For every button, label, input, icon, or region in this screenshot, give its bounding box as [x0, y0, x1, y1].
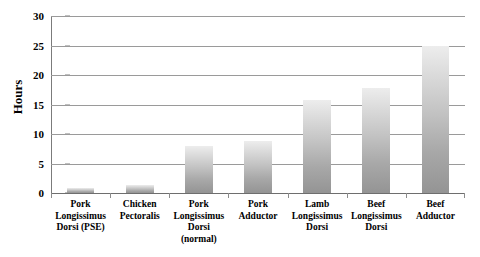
y-axis-tick-label: 20	[33, 70, 44, 81]
x-axis-tick-mark	[406, 193, 407, 198]
x-axis-tick-mark	[347, 193, 348, 198]
bars-layer	[51, 16, 465, 193]
x-axis-category-label: LambLongissimusDorsi	[288, 199, 347, 257]
x-axis-category-label-line: Dorsi	[289, 222, 346, 234]
bar-chart: Hours 051015202530 PorkLongissimusDorsi …	[0, 0, 480, 257]
x-axis-category-label-line: Pork	[170, 199, 227, 211]
x-axis-category-label-line: Longissimus	[348, 211, 405, 223]
x-axis-category-label-line: Dorsi	[348, 222, 405, 234]
x-axis-tick-mark	[464, 193, 465, 198]
y-axis-tick-label: 5	[39, 158, 45, 169]
y-axis-tick-labels: 051015202530	[20, 16, 44, 193]
x-axis-tick-mark	[288, 193, 289, 198]
x-axis-category-label: PorkAdductor	[228, 199, 287, 257]
x-axis-category-label: PorkLongissimusDorsi(normal)	[169, 199, 228, 257]
plot-area	[51, 16, 465, 193]
x-axis-category-label-line: Chicken	[111, 199, 168, 211]
x-axis-category-label-line: Lamb	[289, 199, 346, 211]
x-axis-category-label: BeefLongissimusDorsi	[347, 199, 406, 257]
y-axis-tick-label: 15	[33, 99, 44, 110]
bar	[303, 100, 331, 193]
x-axis-category-labels: PorkLongissimusDorsi (PSE)ChickenPectora…	[51, 199, 465, 257]
x-axis-category-label-line: (normal)	[170, 234, 227, 246]
y-axis-tick-label: 25	[33, 40, 44, 51]
bar	[362, 88, 390, 193]
x-axis-category-label-line: Beef	[348, 199, 405, 211]
x-axis-category-label-line: Longissimus	[170, 211, 227, 223]
x-axis-category-label-line: Pork	[52, 199, 109, 211]
x-axis-tick-mark	[51, 193, 52, 198]
x-axis-category-label-line: Adductor	[229, 211, 286, 223]
bar	[185, 146, 213, 193]
x-axis-category-label: PorkLongissimusDorsi (PSE)	[51, 199, 110, 257]
x-axis-category-label-line: Longissimus	[52, 211, 109, 223]
x-axis-category-label-line: Adductor	[407, 211, 464, 223]
x-axis-category-label-line: Longissimus	[289, 211, 346, 223]
bar	[244, 141, 272, 194]
y-axis-tick-label: 30	[33, 11, 44, 22]
y-axis-tick-label: 10	[33, 129, 44, 140]
x-axis-tick-mark	[110, 193, 111, 198]
x-axis-tick-mark	[228, 193, 229, 198]
x-axis-category-label-line: Beef	[407, 199, 464, 211]
x-axis-ticks	[51, 193, 465, 198]
x-axis-category-label-line: Dorsi (PSE)	[52, 222, 109, 234]
bar	[422, 46, 450, 194]
y-axis-tick-label: 0	[39, 188, 45, 199]
x-axis-category-label: ChickenPectoralis	[110, 199, 169, 257]
bar	[126, 185, 154, 193]
x-axis-category-label-line: Pork	[229, 199, 286, 211]
x-axis-category-label-line: Pectoralis	[111, 211, 168, 223]
x-axis-tick-mark	[169, 193, 170, 198]
x-axis-category-label: BeefAdductor	[406, 199, 465, 257]
x-axis-category-label-line: Dorsi	[170, 222, 227, 234]
